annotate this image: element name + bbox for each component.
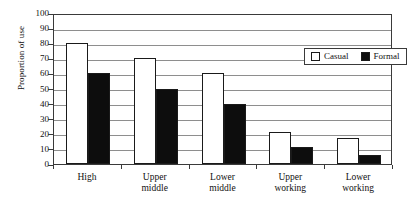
x-tick-label: Lowerworking <box>313 172 403 194</box>
x-tick-mark <box>121 165 122 169</box>
y-tick-label: 30 <box>9 115 49 124</box>
bar-formal-lower-middle <box>224 104 246 164</box>
x-tick-mark <box>324 165 325 169</box>
bar-group <box>337 15 381 164</box>
legend-swatch-formal <box>361 52 370 61</box>
bar-casual-lower-working <box>337 138 359 164</box>
chart-legend: CasualFormal <box>304 48 407 65</box>
y-tick-label: 50 <box>9 85 49 94</box>
legend-entry-formal: Formal <box>361 52 400 61</box>
y-tick-label: 80 <box>9 39 49 48</box>
y-tick-label: 70 <box>9 54 49 63</box>
bar-casual-upper-working <box>269 132 291 164</box>
legend-entry-casual: Casual <box>311 52 349 61</box>
x-tick-mark <box>53 165 54 169</box>
y-tick-label: 60 <box>9 69 49 78</box>
bar-casual-upper-middle <box>134 58 156 164</box>
bar-group <box>134 15 178 164</box>
bar-group <box>66 15 110 164</box>
bar-formal-high <box>88 73 110 164</box>
legend-label: Formal <box>374 52 400 61</box>
bar-group <box>269 15 313 164</box>
y-tick-label: 90 <box>9 24 49 33</box>
y-tick-label: 0 <box>9 160 49 169</box>
bar-casual-high <box>66 43 88 164</box>
legend-label: Casual <box>324 52 349 61</box>
bar-casual-lower-middle <box>202 73 224 164</box>
bar-formal-upper-middle <box>156 89 178 165</box>
y-tick-label: 20 <box>9 130 49 139</box>
x-tick-mark <box>256 165 257 169</box>
x-tick-label-line: working <box>313 183 403 194</box>
x-tick-mark <box>392 165 393 169</box>
y-tick-label: 40 <box>9 100 49 109</box>
y-tick-label: 10 <box>9 145 49 154</box>
x-tick-mark <box>189 165 190 169</box>
bar-formal-lower-working <box>359 155 381 164</box>
bar-group <box>202 15 246 164</box>
x-tick-label-line: Lower <box>313 172 403 183</box>
bar-formal-upper-working <box>291 147 313 164</box>
y-tick-label: 100 <box>9 9 49 18</box>
plot-area: CasualFormal <box>53 14 392 165</box>
legend-swatch-casual <box>311 52 320 61</box>
